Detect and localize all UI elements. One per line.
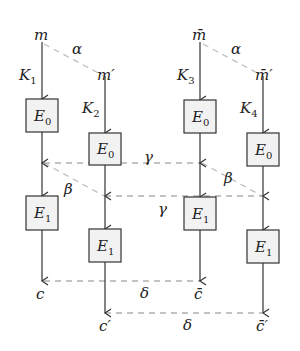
label-key-4: K4 [239, 99, 258, 119]
label-c-bar: c̄ [194, 285, 203, 303]
label-delta-top: δ [140, 284, 149, 302]
beta-link-left [44, 163, 104, 196]
label-c-bar-prime: c̄′ [256, 317, 268, 335]
label-m: m [34, 26, 48, 44]
label-key-3: K3 [176, 66, 195, 86]
label-c: c [36, 285, 45, 303]
label-key-1: K1 [18, 66, 37, 86]
label-gamma-top: γ [144, 148, 153, 166]
label-m-bar-prime: m̄′ [255, 66, 273, 84]
label-beta-left: β [63, 180, 73, 198]
label-alpha-left: α [72, 40, 82, 58]
label-m-bar: m̄ [192, 26, 206, 44]
label-delta-bottom: δ [183, 316, 192, 334]
label-c-prime: c′ [99, 317, 111, 335]
label-gamma-bottom: γ [158, 200, 167, 218]
diagram-canvas: m m′ m̄ m̄′ K1 K2 K3 K4 E0 E0 E0 E0 E1 E… [0, 0, 300, 351]
label-alpha-right: α [231, 40, 241, 58]
label-beta-right: β [223, 169, 233, 187]
label-key-2: K2 [81, 99, 100, 119]
label-m-prime: m′ [97, 66, 115, 84]
